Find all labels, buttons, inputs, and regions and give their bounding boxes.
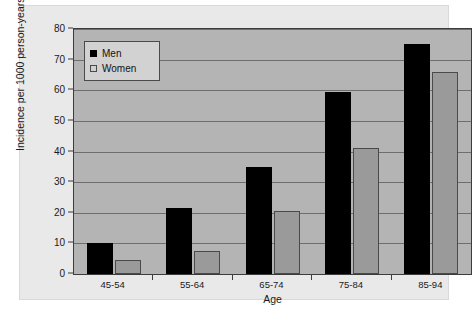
x-tick-label: 55-64 (180, 279, 204, 290)
y-tick-label: 20 (33, 206, 65, 217)
legend-label-women: Women (102, 63, 136, 74)
legend-label-men: Men (102, 48, 121, 59)
y-tick-mark (68, 273, 73, 274)
x-tick-mark (232, 275, 233, 280)
bar-men-65-74 (246, 167, 272, 274)
y-tick-mark (68, 150, 73, 151)
bar-men-55-64 (166, 208, 192, 274)
y-tick-mark (68, 181, 73, 182)
chart-legend: Men Women (84, 41, 160, 81)
y-tick-label: 50 (33, 114, 65, 125)
y-tick-label: 10 (33, 237, 65, 248)
bar-men-45-54 (87, 243, 113, 274)
gridline (74, 29, 471, 30)
x-tick-label: 85-94 (418, 279, 442, 290)
legend-item-women: Women (90, 61, 154, 76)
legend-swatch-men-icon (90, 50, 97, 57)
x-tick-mark (152, 275, 153, 280)
bar-women-65-74 (274, 211, 300, 274)
x-tick-label: 45-54 (101, 279, 125, 290)
x-tick-label: 65-74 (259, 279, 283, 290)
y-tick-mark (68, 211, 73, 212)
y-tick-label: 70 (33, 53, 65, 64)
y-tick-mark (68, 242, 73, 243)
y-tick-mark (68, 28, 73, 29)
y-tick-label: 80 (33, 23, 65, 34)
legend-swatch-women-icon (90, 65, 97, 72)
x-tick-label: 75-84 (339, 279, 363, 290)
bar-women-75-84 (353, 148, 379, 274)
x-axis-label: Age (73, 293, 472, 305)
bar-women-85-94 (432, 72, 458, 274)
y-axis-label: Incidence per 1000 person-years (14, 0, 26, 151)
y-tick-mark (68, 89, 73, 90)
y-tick-mark (68, 58, 73, 59)
y-tick-label: 60 (33, 84, 65, 95)
x-tick-mark (391, 275, 392, 280)
bar-women-55-64 (194, 251, 220, 274)
y-tick-label: 0 (33, 268, 65, 279)
bar-men-85-94 (404, 44, 430, 274)
legend-item-men: Men (90, 46, 154, 61)
y-tick-mark (68, 119, 73, 120)
y-tick-label: 40 (33, 145, 65, 156)
x-tick-mark (311, 275, 312, 280)
bar-women-45-54 (115, 260, 141, 274)
y-tick-label: 30 (33, 176, 65, 187)
chart-figure: Incidence per 1000 person-years 01020304… (19, 5, 449, 300)
bar-men-75-84 (325, 92, 351, 274)
